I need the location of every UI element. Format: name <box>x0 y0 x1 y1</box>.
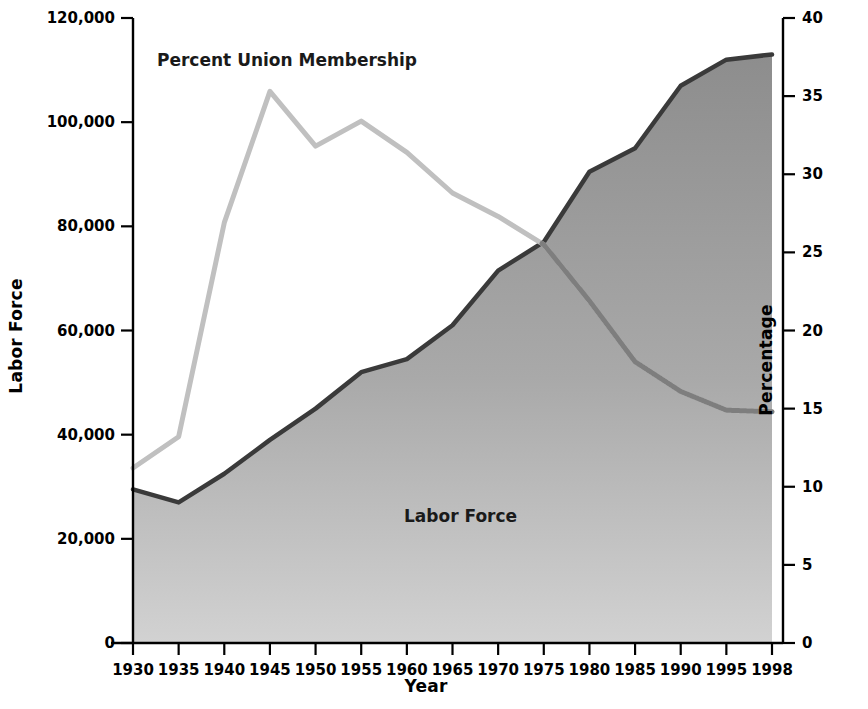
x-axis-tick-1990: 1990 <box>660 661 702 679</box>
y-axis-right-tick-20: 20 <box>802 322 823 340</box>
annotation-labor-force: Labor Force <box>404 506 517 526</box>
y-axis-right-tick-30: 30 <box>802 165 823 183</box>
series-labor-force-area <box>133 54 772 643</box>
x-axis-tick-1998: 1998 <box>751 661 793 679</box>
y-axis-left-tick-120000: 120,000 <box>47 9 115 27</box>
annotation-percent-union-membership: Percent Union Membership <box>157 50 417 70</box>
y-axis-right-tick-10: 10 <box>802 478 823 496</box>
chart-container: Labor Force Percentage Year 020,00040,00… <box>0 0 868 709</box>
x-axis-tick-1970: 1970 <box>477 661 519 679</box>
y-axis-right-tick-15: 15 <box>802 400 823 418</box>
x-axis-tick-1955: 1955 <box>340 661 382 679</box>
y-axis-left-tick-40000: 40,000 <box>57 426 115 444</box>
x-axis-tick-1975: 1975 <box>523 661 565 679</box>
y-axis-left-tick-100000: 100,000 <box>47 113 115 131</box>
x-axis-tick-1960: 1960 <box>386 661 428 679</box>
y-axis-left-title: Labor Force <box>6 236 26 436</box>
x-axis-tick-1980: 1980 <box>569 661 611 679</box>
y-axis-right-title: Percentage <box>756 260 776 460</box>
x-axis-title: Year <box>366 676 486 696</box>
y-axis-left-tick-80000: 80,000 <box>57 217 115 235</box>
x-axis-tick-1995: 1995 <box>705 661 747 679</box>
x-axis-tick-1945: 1945 <box>249 661 291 679</box>
y-axis-left-tick-0: 0 <box>105 634 115 652</box>
x-axis-tick-1965: 1965 <box>432 661 474 679</box>
y-axis-right-tick-25: 25 <box>802 243 823 261</box>
x-axis-tick-1940: 1940 <box>203 661 245 679</box>
x-axis-tick-1930: 1930 <box>112 661 154 679</box>
x-axis-tick-1985: 1985 <box>614 661 656 679</box>
x-axis-tick-1935: 1935 <box>158 661 200 679</box>
chart-plot-area <box>0 0 868 709</box>
y-axis-left-tick-60000: 60,000 <box>57 322 115 340</box>
x-axis-tick-1950: 1950 <box>295 661 337 679</box>
y-axis-right-tick-5: 5 <box>802 556 812 574</box>
y-axis-right-tick-40: 40 <box>802 9 823 27</box>
y-axis-right-tick-35: 35 <box>802 87 823 105</box>
y-axis-right-tick-0: 0 <box>802 634 812 652</box>
y-axis-left-tick-20000: 20,000 <box>57 530 115 548</box>
